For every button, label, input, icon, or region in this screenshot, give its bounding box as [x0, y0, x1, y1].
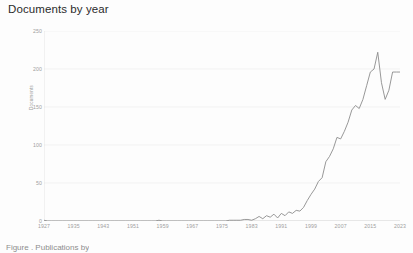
x-tick-label: 1975 [216, 223, 228, 229]
documents-by-year-chart-card: Documents by year Documents 050100150200… [0, 0, 413, 253]
y-axis-tick-container: Documents 050100150200250 [10, 31, 42, 221]
y-tick-label: 200 [16, 66, 42, 72]
x-tick-label: 2015 [364, 223, 376, 229]
y-tick-label: 100 [16, 142, 42, 148]
y-tick-label: 150 [16, 104, 42, 110]
y-axis-title: Documents [29, 63, 34, 133]
x-tick-label: 2007 [335, 223, 347, 229]
documents-line-series [44, 52, 400, 221]
x-tick-label: 1927 [38, 223, 50, 229]
x-tick-label: 1967 [186, 223, 198, 229]
x-axis-tick-container: 1927193519431951195919671975198319911999… [44, 223, 400, 235]
plot-area [44, 31, 400, 221]
x-tick-label: 1943 [97, 223, 109, 229]
x-tick-label: 1951 [127, 223, 139, 229]
x-tick-label: 1935 [68, 223, 80, 229]
chart-plot-svg [44, 31, 400, 221]
x-tick-label: 1959 [157, 223, 169, 229]
x-tick-label: 1991 [275, 223, 287, 229]
chart-title: Documents by year [8, 3, 109, 15]
x-tick-label: 1983 [246, 223, 258, 229]
y-tick-label: 50 [16, 180, 42, 186]
x-tick-label: 1999 [305, 223, 317, 229]
x-tick-label: 2023 [394, 223, 406, 229]
y-tick-label: 250 [16, 28, 42, 34]
figure-caption: Figure . Publications by [6, 243, 89, 253]
